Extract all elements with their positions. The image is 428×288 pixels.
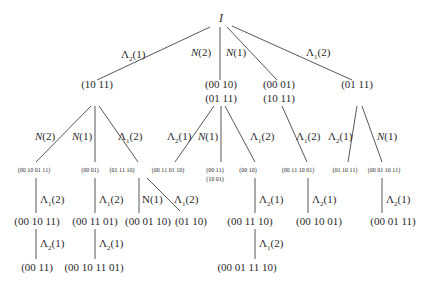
node-001101: (00 11 01) <box>72 215 118 228</box>
edge-root-to-0111 <box>232 26 352 80</box>
level4-edge-labels: Λ2(1) Λ2(1) Λ1(2) <box>40 237 284 252</box>
edge-label-lambda2-1-l4b: Λ2(1) <box>99 237 124 252</box>
level4-nodes: (00 11) (00 10 11 01) (00 01 11 10) <box>21 261 277 274</box>
edge-label-lambda2-1-l3a: Λ2(1) <box>259 193 284 208</box>
edge-label-n1-l2c: N(1) <box>376 130 398 143</box>
level1-nodes: (10 11) (00 10) (01 11) (00 01) (10 11) … <box>81 78 373 105</box>
transformation-tree-diagram: I Λ2(1) N(2) N(1) Λ1(2) (10 11) (00 10) … <box>0 0 428 288</box>
edge-label-lambda1-2-l3c: Λ1(2) <box>174 193 199 208</box>
node-00110110: (00 11 01 10) <box>152 167 184 174</box>
node-0001-line2: (10 11) <box>263 92 295 105</box>
node-0110: (01 10) <box>175 215 207 228</box>
edge-label-n2: N(2) <box>190 46 212 59</box>
node-000111: (00 01 11) <box>370 215 416 228</box>
node-1011: (10 11) <box>81 78 113 91</box>
node-0011-l4: (00 11) <box>21 261 53 274</box>
node-00011110: (00 01 11 10) <box>217 261 277 274</box>
edge-label-lambda1-2-l2c: Λ1(2) <box>296 130 321 145</box>
edge-label-n1-l3: N(1) <box>142 193 163 206</box>
node-001011: (00 10 11) <box>14 215 60 228</box>
node-011011: (01 10 11) <box>333 167 358 174</box>
edge-label-lambda1-2-l3a: Λ1(2) <box>40 193 65 208</box>
level3-nodes: (00 10 11) (00 11 01) (00 01 10) (01 10)… <box>14 215 416 228</box>
edge-label-n1-l2: N(1) <box>71 130 93 143</box>
edge-label-lambda1-2-l2a: Λ1(2) <box>118 130 143 145</box>
node-0011-line2: (10 01) <box>206 176 224 183</box>
edge-label-lambda2-1-l2b: Λ2(1) <box>328 130 353 145</box>
node-000110: (00 01 10) <box>125 215 171 228</box>
node-00100111: (00 10 01 11) <box>18 167 50 174</box>
edge-label-lambda2-1-l3c: Λ2(1) <box>386 193 411 208</box>
node-001110: (00 11 10) <box>227 215 273 228</box>
node-00101101: (00 10 11 01) <box>64 261 124 274</box>
node-001001: (00 10 01) <box>296 215 342 228</box>
node-00111001: (00 11 10 01) <box>282 167 314 174</box>
node-0001-line1: (00 01) <box>263 78 295 91</box>
node-0010-line1: (00 10) <box>205 78 237 91</box>
edge-label-n2-l2: N(2) <box>34 130 56 143</box>
edge-label-n1: N(1) <box>225 46 247 59</box>
edge-label-lambda1-2-l4: Λ1(2) <box>259 237 284 252</box>
node-0111: (01 11) <box>341 78 373 91</box>
edge-label-lambda2-1-l4a: Λ2(1) <box>40 237 65 252</box>
node-00011011: (00 01 10 11) <box>368 167 400 174</box>
node-0010-line2: (01 11) <box>205 92 237 105</box>
edge-label-lambda2-1: Λ2(1) <box>121 48 146 63</box>
edge-label-lambda1-2: Λ1(2) <box>306 46 331 61</box>
level2-edge-labels: N(2) N(1) Λ1(2) Λ2(1) N(1) Λ1(2) Λ1(2) Λ… <box>34 130 398 145</box>
level1-edge-labels: Λ2(1) N(2) N(1) Λ1(2) <box>121 46 331 63</box>
level3-edge-labels: Λ1(2) Λ1(2) N(1) Λ1(2) Λ2(1) Λ2(1) Λ2(1) <box>40 193 411 208</box>
node-0001-l2: (00 01) <box>81 167 99 174</box>
node-011110: (01 11 10) <box>110 167 135 174</box>
root-node: I <box>218 11 224 25</box>
node-0010-l2: (00 10) <box>239 167 257 174</box>
edge-label-n1-l2b: N(1) <box>197 130 219 143</box>
level2-nodes: (00 10 01 11) (00 01) (01 11 10) (00 11 … <box>18 167 400 183</box>
node-0011-line1: (00 11) <box>206 167 223 174</box>
edge-label-lambda2-1-l3b: Λ2(1) <box>312 193 337 208</box>
edge-label-lambda1-2-l3b: Λ1(2) <box>99 193 124 208</box>
edge-label-lambda1-2-l2b: Λ1(2) <box>250 130 275 145</box>
